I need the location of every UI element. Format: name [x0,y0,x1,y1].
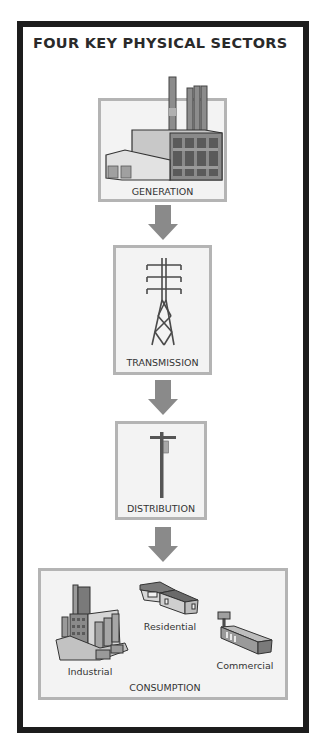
commercial-label: Commercial [210,660,280,671]
commercial-building-icon [0,0,318,747]
consumption-label: CONSUMPTION [110,682,220,693]
